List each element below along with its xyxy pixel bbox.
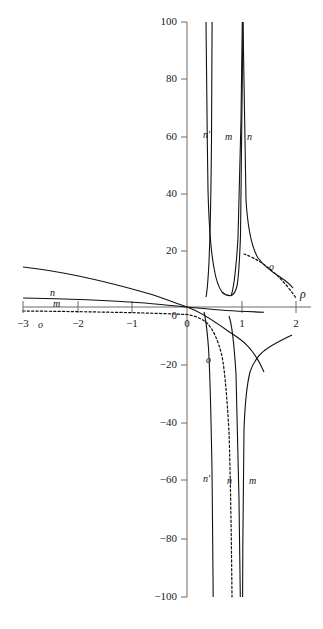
x-tick-label-neg3: −3 — [8, 318, 38, 329]
curve-label-nprime-lower: n′ — [203, 474, 210, 484]
x-axis-title: ρ — [300, 288, 306, 300]
curve-label-n-upper: n — [247, 132, 252, 142]
curve-label-m-lower: m — [249, 476, 256, 486]
curve-label-m-upper: m — [225, 132, 232, 142]
x-tick-label-1: 1 — [228, 318, 256, 329]
y-tick-label-neg60: −60 — [144, 474, 177, 485]
curve-label-o-left: o — [38, 320, 43, 330]
curve-o-branch-left — [23, 311, 232, 597]
y-axis-ticks — [181, 22, 187, 597]
y-tick-label-80: 80 — [149, 73, 177, 84]
curve-n-branch-up — [231, 22, 242, 296]
y-tick-label-60: 60 — [149, 131, 177, 142]
curve-n-branch-lower — [229, 316, 240, 597]
curve-label-o-lower: o — [206, 355, 211, 365]
curve-label-o-upper-right: o — [269, 262, 274, 272]
curve-m-branch-lower-right — [243, 335, 292, 597]
x-tick-label-0: 0 — [173, 318, 201, 329]
x-tick-label-neg1: −1 — [117, 318, 147, 329]
x-tick-label-2: 2 — [282, 318, 310, 329]
y-tick-label-neg80: −80 — [144, 533, 177, 544]
curve-label-n-left: n — [50, 288, 55, 298]
curve-label-n-lower: n — [227, 476, 232, 486]
curve-label-m-left: m — [53, 299, 60, 309]
x-tick-label-neg2: −2 — [63, 318, 93, 329]
y-tick-label-40: 40 — [149, 188, 177, 199]
curve-label-nprime-upper: n′ — [203, 130, 210, 140]
y-tick-label-neg100: −100 — [138, 591, 177, 602]
y-tick-label-20: 20 — [149, 245, 177, 256]
figure-container: 100 80 60 40 20 0 −20 −40 −60 −80 −100 −… — [0, 0, 323, 629]
y-tick-label-100: 100 — [149, 16, 177, 27]
y-tick-label-neg40: −40 — [144, 417, 177, 428]
y-tick-label-neg20: −20 — [144, 359, 177, 370]
curve-n-branch-upper-right — [243, 22, 293, 288]
